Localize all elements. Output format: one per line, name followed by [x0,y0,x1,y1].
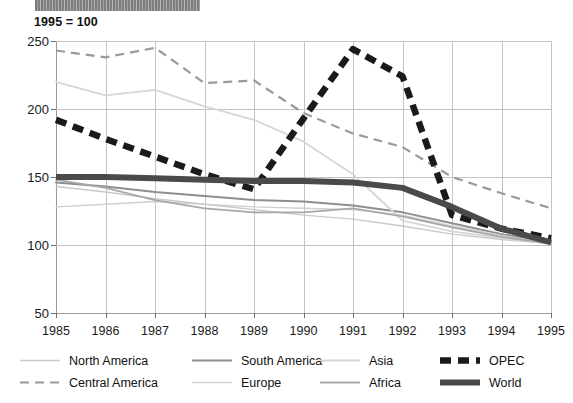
legend-item-world[interactable]: World [440,374,521,391]
legend-label: Europe [241,376,281,390]
legend-item-opec[interactable]: OPEC [440,352,524,369]
x-axis-tick-label: 1989 [240,324,268,338]
legend-swatch-icon [192,355,232,366]
y-axis-tick-label: 250 [27,34,49,49]
y-axis-tick-label: 150 [27,170,49,185]
x-axis-tick-label: 1991 [339,324,367,338]
x-axis-tick-mark [106,313,107,318]
gridline-vertical [551,41,552,313]
legend-swatch-icon [320,355,360,366]
legend-swatch-icon [192,377,232,388]
legend-item-africa[interactable]: Africa [320,374,401,391]
legend-label: Africa [369,376,401,390]
x-axis-tick-label: 1993 [438,324,466,338]
x-axis-tick-mark [452,313,453,318]
x-axis-tick-mark [254,313,255,318]
chart-legend: North AmericaCentral AmericaSouth Americ… [0,352,573,400]
legend-item-central-america[interactable]: Central America [20,374,158,391]
x-axis-tick-label: 1990 [290,324,318,338]
legend-item-north-america[interactable]: North America [20,352,148,369]
x-axis-tick-label: 1995 [537,324,565,338]
y-axis-tick-label: 50 [35,306,49,321]
x-axis-tick-label: 1985 [42,324,70,338]
x-axis-tick-mark [551,313,552,318]
legend-swatch-icon [440,377,480,388]
x-axis-tick-label: 1994 [488,324,516,338]
x-axis-tick-label: 1992 [389,324,417,338]
y-axis-tick-label: 200 [27,102,49,117]
plot-area: 5010015020025019851986198719881989199019… [56,41,551,313]
legend-swatch-icon [20,377,60,388]
series-layer [56,41,551,313]
x-axis-tick-mark [502,313,503,318]
legend-swatch-icon [320,377,360,388]
legend-swatch-icon [440,355,480,366]
legend-item-europe[interactable]: Europe [192,374,281,391]
legend-label: World [489,376,521,390]
legend-label: North America [69,354,148,368]
x-axis-tick-label: 1988 [191,324,219,338]
x-axis-tick-mark [205,313,206,318]
x-axis-tick-label: 1986 [92,324,120,338]
x-axis-tick-label: 1987 [141,324,169,338]
legend-label: South America [241,354,322,368]
legend-label: Central America [69,376,158,390]
x-axis-tick-mark [403,313,404,318]
series-line-opec [56,49,551,238]
line-chart: 5010015020025019851986198719881989199019… [0,0,573,345]
legend-item-south-america[interactable]: South America [192,352,322,369]
x-axis-tick-mark [155,313,156,318]
legend-label: OPEC [489,354,524,368]
legend-label: Asia [369,354,393,368]
x-axis-tick-mark [304,313,305,318]
x-axis-tick-mark [56,313,57,318]
legend-item-asia[interactable]: Asia [320,352,393,369]
y-axis-tick-label: 100 [27,238,49,253]
series-line-central-america [56,48,551,208]
legend-swatch-icon [20,355,60,366]
x-axis-tick-mark [353,313,354,318]
